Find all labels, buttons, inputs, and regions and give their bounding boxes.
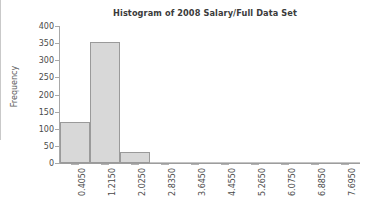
y-axis-tick-label: 150	[39, 107, 54, 116]
y-axis-tick-label: 300	[39, 56, 54, 65]
y-axis-tick-mark	[55, 60, 59, 61]
y-axis-tick-label: 250	[39, 73, 54, 82]
x-axis-tick-mark	[221, 164, 229, 165]
x-axis-tick-label: 4.4550	[228, 168, 237, 196]
y-axis-tick-label: 50	[44, 141, 54, 150]
x-axis-tick-mark	[71, 164, 79, 165]
x-axis-tick-label: 7.6950	[348, 168, 357, 196]
y-axis-tick-mark	[55, 112, 59, 113]
x-axis-tick-mark	[341, 164, 349, 165]
histogram-bar	[60, 122, 90, 163]
x-axis-tick-label: 3.6450	[198, 168, 207, 196]
plot-area	[60, 26, 360, 163]
y-axis-tick-labels: 400350300250200150100500	[24, 22, 54, 168]
x-axis-tick-mark	[281, 164, 289, 165]
x-axis-tick-mark	[101, 164, 109, 165]
y-axis-tick-label: 200	[39, 90, 54, 99]
y-axis-tick-mark	[55, 26, 59, 27]
x-axis-tick-mark	[131, 164, 139, 165]
y-axis-tick-mark	[55, 43, 59, 44]
x-axis-tick-labels: 0.40501.21502.02502.83503.64504.45505.26…	[60, 168, 360, 214]
x-axis-tick-label: 2.8350	[168, 168, 177, 196]
x-axis-tick-label: 2.0250	[138, 168, 147, 196]
y-axis-tick-label: 0	[49, 159, 54, 168]
x-axis-tick-label: 1.2150	[108, 168, 117, 196]
y-axis-title: Frequency	[10, 49, 19, 125]
y-axis-tick-mark	[55, 129, 59, 130]
x-axis-tick-mark	[311, 164, 319, 165]
x-axis-tick-mark	[161, 164, 169, 165]
x-axis-tick-mark	[191, 164, 199, 165]
x-axis-tick-label: 6.8850	[318, 168, 327, 196]
histogram-bar	[90, 42, 120, 163]
x-axis-tick-label: 0.4050	[78, 168, 87, 196]
page-title: Histogram of 2008 Salary/Full Data Set	[90, 8, 320, 18]
y-axis-tick-mark	[55, 146, 59, 147]
y-axis-tick-mark	[55, 95, 59, 96]
x-axis-tick-mark	[251, 164, 259, 165]
y-axis-tick-label: 400	[39, 22, 54, 31]
y-axis-tick-mark	[55, 77, 59, 78]
y-axis-tick-mark	[55, 163, 59, 164]
x-axis-tick-label: 5.2650	[258, 168, 267, 196]
x-axis-tick-label: 6.0750	[288, 168, 297, 196]
histogram-bar	[120, 152, 150, 163]
histogram-chart: Histogram of 2008 Salary/Full Data Set F…	[0, 0, 374, 214]
y-axis-tick-label: 100	[39, 124, 54, 133]
y-axis-tick-label: 350	[39, 39, 54, 48]
